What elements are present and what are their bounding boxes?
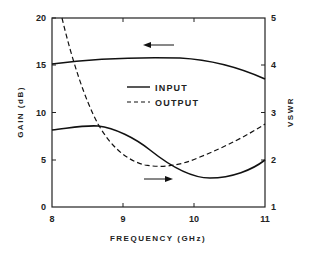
left-y-axis-label: GAIN (dB) (16, 86, 25, 138)
svg-text:0: 0 (41, 202, 46, 212)
svg-text:11: 11 (260, 214, 270, 224)
svg-text:9: 9 (120, 214, 125, 224)
x-tick-labels: 8 9 10 11 (49, 214, 269, 224)
right-arrow-icon (144, 176, 173, 182)
svg-text:2: 2 (271, 155, 276, 165)
svg-text:15: 15 (36, 60, 46, 70)
svg-text:10: 10 (189, 214, 199, 224)
legend-output-label: OUTPUT (155, 98, 199, 108)
svg-text:3: 3 (271, 108, 276, 118)
svg-text:4: 4 (271, 60, 276, 70)
vswr-input-curve (52, 126, 265, 178)
svg-text:8: 8 (49, 214, 54, 224)
x-axis-label: FREQUENCY (GHz) (110, 234, 206, 243)
svg-text:5: 5 (271, 13, 276, 23)
right-y-axis-label: VSWR (286, 97, 295, 127)
svg-text:1: 1 (271, 202, 276, 212)
svg-text:10: 10 (36, 108, 46, 118)
svg-text:20: 20 (36, 13, 46, 23)
left-arrow-icon (143, 42, 174, 48)
gain-vswr-chart: 20 15 10 5 0 5 4 3 2 1 8 9 10 11 FREQUEN… (0, 0, 312, 253)
left-y-tick-labels: 20 15 10 5 0 (36, 13, 46, 212)
gain-curve (52, 58, 265, 79)
right-y-tick-labels: 5 4 3 2 1 (271, 13, 276, 212)
legend-input-label: INPUT (155, 83, 188, 93)
svg-text:5: 5 (41, 155, 46, 165)
legend: INPUT OUTPUT (127, 83, 199, 108)
